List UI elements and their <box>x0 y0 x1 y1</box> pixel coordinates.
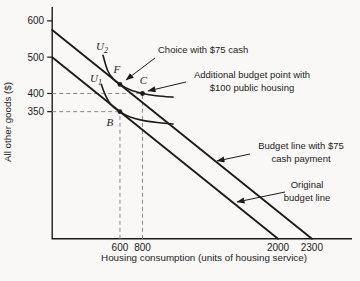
original-budget-line-callout-arrow <box>237 192 285 202</box>
indifference-curve-u2 <box>103 55 173 97</box>
y-tick-label: 500 <box>28 52 45 63</box>
choice-75-cash-callout-text: Choice with $75 cash <box>158 44 248 55</box>
budget-line-75-callout-text: Budget line with $75 <box>258 140 344 151</box>
y-tick-label: 600 <box>28 15 45 26</box>
point-F <box>118 82 123 87</box>
y-tick-label: 350 <box>28 106 45 117</box>
curve-label-U2: U2 <box>96 40 108 55</box>
original-budget-line-callout-text: Original <box>291 179 324 190</box>
original-budget-line-callout-text: budget line <box>284 192 330 203</box>
point-label-F: F <box>113 63 121 75</box>
additional-budget-point-callout-text: Additional budget point with <box>194 69 310 80</box>
additional-budget-point-callout-text: $100 public housing <box>210 82 295 93</box>
plot-generated: 35040050060060080020002300FCBU2U1Choice … <box>28 7 352 253</box>
y-axis-label: All other goods ($) <box>2 82 13 162</box>
additional-budget-point-callout-arrow <box>148 82 186 91</box>
point-label-B: B <box>107 116 114 128</box>
figure-svg: 35040050060060080020002300FCBU2U1Choice … <box>0 0 360 281</box>
point-B <box>118 109 123 114</box>
budget-line-75-callout-text: cash payment <box>271 153 331 164</box>
curve-label-U1: U1 <box>90 72 102 87</box>
budget-line-figure: 35040050060060080020002300FCBU2U1Choice … <box>0 0 360 281</box>
point-label-C: C <box>140 74 148 86</box>
budget-line-75-callout-arrow <box>217 154 250 161</box>
x-axis-label: Housing consumption (units of housing se… <box>101 252 307 263</box>
point-C <box>140 91 145 96</box>
y-tick-label: 400 <box>28 88 45 99</box>
budget-line-75-cash <box>52 30 312 239</box>
